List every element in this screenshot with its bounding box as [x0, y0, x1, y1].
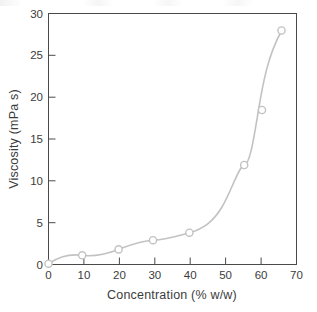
plot-frame — [49, 14, 297, 265]
x-tick-label: 10 — [78, 269, 91, 281]
y-tick-label: 30 — [30, 8, 43, 20]
data-point — [79, 252, 86, 259]
x-axis-tick-labels: 0 10 20 30 40 50 60 70 — [45, 269, 303, 281]
data-point — [241, 161, 248, 168]
viscosity-concentration-chart: 0 5 10 15 20 25 30 0 10 20 30 40 50 60 7… — [0, 0, 317, 312]
x-tick-label: 40 — [184, 269, 197, 281]
x-tick-label: 60 — [255, 269, 268, 281]
x-tick-label: 30 — [148, 269, 161, 281]
y-tick-label: 10 — [30, 175, 43, 187]
x-tick-label: 50 — [219, 269, 232, 281]
y-axis-tick-labels: 0 5 10 15 20 25 30 — [30, 8, 43, 271]
data-point — [186, 229, 193, 236]
y-tick-label: 0 — [37, 259, 43, 271]
x-tick-label: 20 — [113, 269, 126, 281]
chart-figure: 0 5 10 15 20 25 30 0 10 20 30 40 50 60 7… — [0, 0, 317, 312]
y-axis-ticks — [49, 14, 56, 265]
y-tick-label: 5 — [37, 217, 43, 229]
data-point-markers — [45, 27, 285, 267]
data-point — [115, 246, 122, 253]
y-tick-label: 25 — [30, 49, 43, 61]
data-point — [45, 260, 52, 267]
data-point — [149, 237, 156, 244]
y-tick-label: 15 — [30, 133, 43, 145]
y-axis-title: Viscosity (mPa s) — [7, 89, 21, 189]
x-axis-ticks — [49, 258, 297, 265]
y-tick-label: 20 — [30, 91, 43, 103]
x-tick-label: 70 — [290, 269, 303, 281]
viscosity-curve — [49, 31, 282, 264]
x-tick-label: 0 — [45, 269, 51, 281]
data-point — [278, 27, 285, 34]
x-axis-title: Concentration (% w/w) — [107, 288, 237, 302]
data-point — [258, 106, 265, 113]
